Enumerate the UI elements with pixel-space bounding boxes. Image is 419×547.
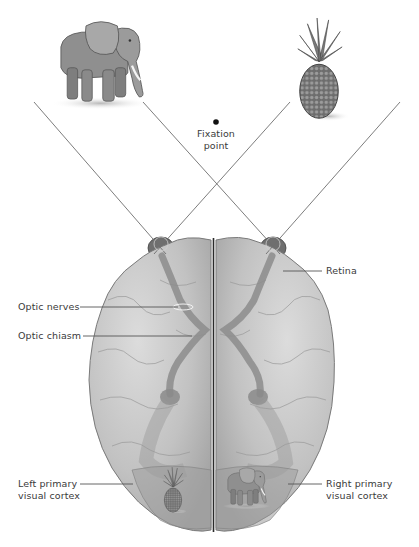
retina-label: Retina [326, 265, 357, 277]
right-cortex-label-line1: Right primary [326, 478, 393, 490]
brain [89, 237, 334, 532]
optic-chiasm-label: Optic chiasm [18, 330, 81, 342]
fixation-point-label-line1: Fixation [197, 128, 235, 140]
right-cortex-label-line2: visual cortex [326, 490, 388, 502]
left-cortex-label-line1: Left primary [18, 478, 77, 490]
optic-nerves-label: Optic nerves [18, 301, 80, 313]
pineapple-object [298, 18, 350, 121]
sight-lines [34, 102, 400, 254]
fixation-point-dot [213, 119, 219, 125]
fixation-point-label-line2: point [204, 140, 229, 152]
left-cortex-label-line2: visual cortex [18, 490, 80, 502]
elephant-object [50, 22, 150, 110]
